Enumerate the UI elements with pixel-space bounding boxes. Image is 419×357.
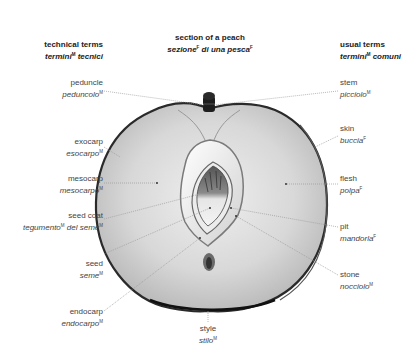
- title-en: section of a peach: [159, 33, 261, 43]
- label-en: peduncle: [62, 78, 103, 88]
- peduncle-stem: [203, 92, 215, 112]
- label-en: seed: [80, 259, 103, 269]
- header-left-rest: tecnici: [75, 52, 103, 61]
- label-en: stem: [340, 78, 370, 88]
- label-skin: skin bucciaF: [340, 124, 366, 145]
- label-sup: M: [99, 186, 103, 191]
- label-sup: F: [360, 186, 363, 191]
- label-it: seme: [80, 271, 100, 280]
- label-en: flesh: [340, 174, 362, 184]
- label-exocarp: exocarp esocarpoM: [66, 137, 103, 158]
- label-it: mandorla: [340, 234, 373, 243]
- label-it: buccia: [340, 136, 363, 145]
- label-it: polpa: [340, 186, 360, 195]
- label-sup: M: [369, 282, 373, 287]
- diagram-title: section of a peach sezioneF di una pesca…: [159, 33, 261, 54]
- title-it-rest-sup: F: [250, 45, 253, 50]
- label-sup: M: [99, 319, 103, 324]
- header-left-en: technical terms: [44, 40, 103, 50]
- label-peduncle: peduncle peduncoloM: [62, 78, 103, 99]
- label-it: endocarpo: [61, 319, 99, 328]
- label-en: seed coat: [23, 211, 103, 221]
- header-right-rest: comuni: [370, 52, 401, 61]
- label-en: pit: [340, 222, 376, 232]
- label-mesocarp: mesocarp mesocarpoM: [60, 174, 103, 195]
- header-technical-terms: technical terms terminiM tecnici: [44, 40, 103, 61]
- label-seed: seed semeM: [80, 259, 103, 280]
- label-rest-sup: M: [99, 223, 103, 228]
- label-sup: M: [213, 336, 217, 341]
- label-endocarp: endocarp endocarpoM: [61, 307, 103, 328]
- label-sup: M: [99, 149, 103, 154]
- label-it: nocciolo: [340, 282, 369, 291]
- label-sup: M: [99, 271, 103, 276]
- label-sup: F: [363, 136, 366, 141]
- label-it: mesocarpo: [60, 186, 100, 195]
- label-pit: pit mandorlaF: [340, 222, 376, 243]
- label-stem: stem piccioloM: [340, 78, 370, 99]
- label-seed-coat: seed coat tegumentoM del semeM: [23, 211, 103, 232]
- label-it: esocarpo: [66, 149, 99, 158]
- label-en: mesocarp: [60, 174, 103, 184]
- label-style: style stiloM: [188, 324, 228, 345]
- header-left-it: termini: [45, 52, 72, 61]
- label-flesh: flesh polpaF: [340, 174, 362, 195]
- label-sup: F: [373, 234, 376, 239]
- label-it-rest: del seme: [65, 223, 100, 232]
- label-it: tegumento: [23, 223, 61, 232]
- label-en: skin: [340, 124, 366, 134]
- label-en: style: [188, 324, 228, 334]
- label-it: peduncolo: [62, 90, 99, 99]
- label-stone: stone noccioloM: [340, 270, 373, 291]
- style-cavity: [203, 253, 215, 271]
- header-right-en: usual terms: [340, 40, 401, 50]
- label-sup: M: [99, 90, 103, 95]
- label-en: endocarp: [61, 307, 103, 317]
- label-it: picciolo: [340, 90, 367, 99]
- label-it: stilo: [199, 336, 213, 345]
- title-it-rest: di una pesca: [199, 45, 250, 54]
- title-it: sezione: [167, 45, 196, 54]
- label-sup: M: [367, 90, 371, 95]
- header-usual-terms: usual terms terminiM comuni: [340, 40, 401, 61]
- label-en: stone: [340, 270, 373, 280]
- label-en: exocarp: [66, 137, 103, 147]
- header-right-it: termini: [340, 52, 367, 61]
